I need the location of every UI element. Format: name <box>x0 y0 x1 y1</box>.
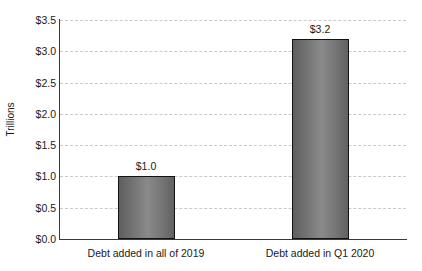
bar <box>292 39 349 239</box>
y-axis-line <box>59 19 60 240</box>
y-axis-tick-label: $3.0 <box>36 46 56 57</box>
gridline <box>60 145 406 146</box>
bar-chart: Trillions $0.0$0.5$1.0$1.5$2.0$2.5$3.0$3… <box>0 0 422 271</box>
bar-value-label: $1.0 <box>136 161 156 172</box>
y-axis-tick-label: $1.0 <box>36 171 56 182</box>
bar-value-label: $3.2 <box>310 24 330 35</box>
y-axis-tick-label: $3.5 <box>36 15 56 26</box>
gridline <box>60 83 406 84</box>
bar <box>118 176 175 239</box>
x-axis-category-label: Debt added in all of 2019 <box>88 248 205 259</box>
y-axis-tick-labels: $0.0$0.5$1.0$1.5$2.0$2.5$3.0$3.5 <box>14 20 56 239</box>
gridline <box>60 176 406 177</box>
y-axis-tick-label: $2.0 <box>36 109 56 120</box>
plot-area: $1.0$3.2 <box>60 20 406 239</box>
gridline <box>60 114 406 115</box>
y-axis-tick-label: $0.0 <box>36 234 56 245</box>
y-axis-tick-label: $2.5 <box>36 77 56 88</box>
gridline <box>60 20 406 21</box>
x-axis-line <box>59 239 407 240</box>
gridline <box>60 208 406 209</box>
y-axis-tick-label: $0.5 <box>36 202 56 213</box>
y-axis-tick-label: $1.5 <box>36 140 56 151</box>
gridline <box>60 51 406 52</box>
x-axis-category-label: Debt added in Q1 2020 <box>266 248 375 259</box>
